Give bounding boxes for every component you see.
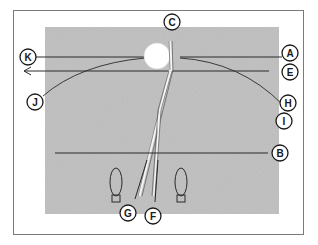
label-k: K xyxy=(20,49,36,65)
svg-text:A: A xyxy=(286,48,293,59)
golf-ball xyxy=(144,43,170,69)
svg-text:C: C xyxy=(168,17,175,28)
label-g: G xyxy=(120,205,136,221)
svg-text:G: G xyxy=(124,208,132,219)
label-b: B xyxy=(272,145,288,161)
svg-text:B: B xyxy=(276,148,283,159)
svg-text:H: H xyxy=(284,98,291,109)
label-e: E xyxy=(282,64,298,80)
golf-address-diagram: C K J A E H I B G F xyxy=(0,0,318,245)
label-h: H xyxy=(280,95,296,111)
label-c: C xyxy=(164,14,180,30)
label-i: I xyxy=(276,113,292,129)
label-a: A xyxy=(282,45,298,61)
svg-text:F: F xyxy=(150,211,156,222)
svg-text:I: I xyxy=(283,116,286,127)
label-f: F xyxy=(145,208,161,224)
svg-text:E: E xyxy=(287,67,294,78)
svg-text:K: K xyxy=(24,52,32,63)
label-j: J xyxy=(27,94,43,110)
svg-text:J: J xyxy=(32,97,38,108)
